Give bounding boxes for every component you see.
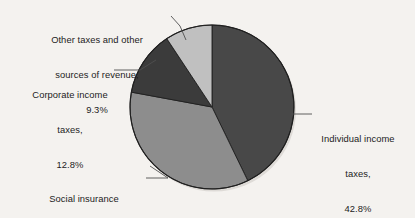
slice-label-corporate-income-taxes-line1: Corporate income (8, 89, 132, 101)
slice-label-individual-income-taxes-line1: Individual income (304, 133, 412, 145)
slice-label-individual-income-taxes: Individual income taxes, 42.8% (304, 110, 412, 218)
slice-label-social-insurance-taxes: Social insurance taxes, 35.1% (22, 170, 146, 218)
slice-label-other-taxes-line1: Other taxes and other (24, 34, 170, 46)
slice-label-individual-income-taxes-line2: taxes, (304, 168, 412, 180)
pie-chart: Other taxes and other sources of revenue… (0, 0, 415, 218)
slice-label-corporate-income-taxes-value: 12.8% (8, 159, 132, 171)
slice-label-social-insurance-taxes-line1: Social insurance (22, 193, 146, 205)
slice-label-corporate-income-taxes-line2: taxes, (8, 124, 132, 136)
slice-label-individual-income-taxes-value: 42.8% (304, 203, 412, 215)
